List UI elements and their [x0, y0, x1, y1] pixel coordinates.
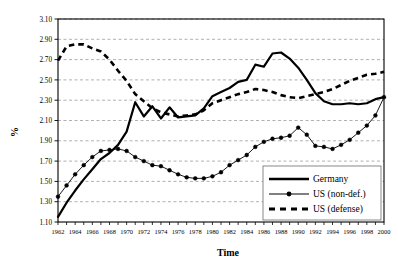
x-tick-label: 1992	[309, 228, 322, 235]
data-point-marker	[279, 136, 283, 140]
x-tick-label: 1964	[69, 228, 83, 235]
y-axis-ticks: 1.101.301.501.701.902.102.302.502.702.90…	[39, 16, 58, 227]
x-tick-label: 1966	[86, 228, 99, 235]
data-point-marker	[202, 176, 206, 180]
data-point-marker	[65, 184, 69, 188]
series-line-us-defense	[58, 44, 384, 116]
y-tick-label: 2.30	[39, 97, 52, 105]
data-point-marker	[133, 155, 137, 159]
y-tick-label: 1.70	[39, 158, 52, 166]
x-tick-label: 1990	[292, 228, 305, 235]
x-tick-label: 2000	[378, 228, 391, 235]
data-point-marker	[356, 131, 360, 135]
y-tick-label: 1.50	[39, 178, 52, 186]
x-tick-label: 1994	[326, 228, 340, 235]
data-point-marker	[348, 138, 352, 142]
data-point-marker	[305, 133, 309, 137]
legend-label: Germany	[313, 174, 349, 184]
data-point-marker	[365, 124, 369, 128]
data-point-marker	[288, 134, 292, 138]
x-tick-label: 1972	[137, 228, 150, 235]
y-tick-label: 2.90	[39, 36, 52, 44]
data-point-marker	[168, 168, 172, 172]
legend-label: US (non-def.)	[313, 189, 366, 200]
y-tick-label: 1.10	[39, 219, 52, 227]
data-point-marker	[245, 153, 249, 157]
data-point-marker	[99, 149, 103, 153]
data-point-marker	[382, 95, 386, 99]
y-tick-label: 2.50	[39, 77, 52, 85]
x-tick-label: 1982	[223, 228, 236, 235]
y-tick-label: 1.30	[39, 198, 52, 206]
data-point-marker	[253, 145, 257, 149]
data-point-marker	[331, 147, 335, 151]
line-chart: 1.101.301.501.701.902.102.302.502.702.90…	[0, 0, 398, 265]
x-tick-label: 1998	[360, 228, 373, 235]
data-point-marker	[73, 172, 77, 176]
data-point-marker	[193, 176, 197, 180]
y-tick-label: 2.10	[39, 117, 52, 125]
y-tick-label: 2.70	[39, 56, 52, 64]
data-point-marker	[211, 174, 215, 178]
data-point-marker	[56, 195, 60, 199]
data-point-marker	[125, 149, 129, 153]
x-tick-label: 1970	[120, 228, 133, 235]
legend-label: US (defense)	[313, 204, 363, 215]
data-point-marker	[90, 155, 94, 159]
x-tick-label: 1980	[206, 228, 219, 235]
data-point-marker	[296, 126, 300, 130]
x-tick-label: 1976	[172, 228, 185, 235]
x-tick-label: 1962	[52, 228, 65, 235]
x-axis-ticks: 1962196419661968197019721974197619781980…	[52, 222, 391, 235]
y-tick-label: 3.10	[39, 16, 52, 24]
x-tick-label: 1986	[258, 228, 271, 235]
data-point-marker	[159, 164, 163, 168]
data-point-marker	[176, 172, 180, 176]
data-point-marker	[150, 163, 154, 167]
data-point-marker	[142, 159, 146, 163]
legend-marker	[287, 192, 292, 197]
x-tick-label: 1974	[155, 228, 169, 235]
x-tick-label: 1984	[240, 228, 254, 235]
data-point-marker	[322, 145, 326, 149]
x-tick-label: 1988	[275, 228, 288, 235]
data-point-marker	[313, 144, 317, 148]
data-point-marker	[185, 175, 189, 179]
x-tick-label: 1968	[103, 228, 116, 235]
data-point-marker	[116, 147, 120, 151]
y-axis-title: %	[9, 127, 20, 137]
data-point-marker	[228, 163, 232, 167]
y-tick-label: 1.90	[39, 137, 52, 145]
x-tick-label: 1978	[189, 228, 202, 235]
data-point-marker	[236, 158, 240, 162]
chart-container: 1.101.301.501.701.902.102.302.502.702.90…	[0, 0, 398, 265]
data-point-marker	[82, 163, 86, 167]
data-point-marker	[108, 148, 112, 152]
x-axis-title: Time	[217, 247, 240, 258]
data-point-marker	[271, 137, 275, 141]
x-tick-label: 1996	[343, 228, 356, 235]
data-point-marker	[219, 170, 223, 174]
data-point-marker	[262, 140, 266, 144]
data-point-marker	[339, 143, 343, 147]
data-point-marker	[374, 114, 378, 118]
chart-legend: GermanyUS (non-def.)US (defense)	[263, 166, 381, 220]
